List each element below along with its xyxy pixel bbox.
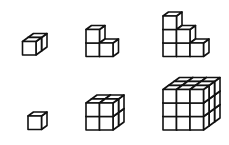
cube-front-face xyxy=(190,117,204,131)
cube-front-face xyxy=(86,117,100,131)
cube-front-face xyxy=(86,103,100,117)
cube-front-face xyxy=(86,43,100,57)
figure-bottom-middle-2x2x2-cube xyxy=(86,95,124,130)
cube-front-face xyxy=(190,90,204,104)
cube-front-face xyxy=(163,30,177,44)
cube-front-face xyxy=(190,103,204,117)
cube-front-face xyxy=(177,117,191,131)
cube-front-face xyxy=(163,43,177,57)
cube-front-face xyxy=(163,117,177,131)
cube-front-face xyxy=(177,43,191,57)
cube-figures-diagram xyxy=(0,0,229,145)
figure-top-left-two-deep-stack xyxy=(23,34,48,56)
cube-front-face xyxy=(100,117,114,131)
figure-bottom-right-3x3x3-cube xyxy=(163,78,220,131)
cube-front-face xyxy=(100,43,114,57)
cube-front-face xyxy=(177,90,191,104)
figure-top-middle-three-cube-staircase xyxy=(86,26,119,57)
cube-front-face xyxy=(100,103,114,117)
cube-front-face xyxy=(177,30,191,44)
cube-front-face xyxy=(177,103,191,117)
cube-front-face xyxy=(190,43,204,57)
figure-top-right-six-cube-staircase xyxy=(163,12,209,57)
cube-front-face xyxy=(86,30,100,44)
cube-front-face xyxy=(28,116,42,130)
cube-front-face xyxy=(23,42,37,56)
cube-front-face xyxy=(163,103,177,117)
cube-front-face xyxy=(163,90,177,104)
cube-front-face xyxy=(163,16,177,30)
figure-bottom-left-single-cube xyxy=(28,112,47,130)
